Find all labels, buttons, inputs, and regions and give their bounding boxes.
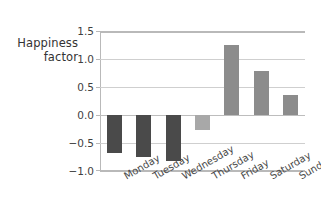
y-axis-tick-label: −0.5 bbox=[66, 138, 94, 149]
y-axis-tick bbox=[96, 115, 100, 116]
x-axis-tick-label-sunday: Sunday bbox=[297, 172, 303, 182]
y-axis-tick bbox=[96, 31, 100, 32]
y-axis-tick-label: 1.5 bbox=[66, 26, 94, 37]
y-axis-tick-labels: 1.51.00.50.0−0.5−1.0 bbox=[62, 31, 94, 171]
y-axis-tick bbox=[96, 87, 100, 88]
x-axis-tick-label-saturday: Saturday bbox=[268, 172, 274, 182]
y-axis-tick bbox=[96, 170, 100, 171]
bar-wednesday[interactable] bbox=[166, 115, 181, 161]
x-axis-tick-label-tuesday: Tuesday bbox=[151, 172, 157, 182]
bar-saturday[interactable] bbox=[254, 71, 269, 115]
y-axis-tick-label: 0.0 bbox=[66, 110, 94, 121]
x-axis-tick-label-friday: Friday bbox=[239, 172, 245, 182]
bar-tuesday[interactable] bbox=[136, 115, 151, 157]
plot-frame-top bbox=[100, 31, 305, 33]
gridline-1 bbox=[100, 59, 305, 60]
y-axis-tick-label: 1.0 bbox=[66, 54, 94, 65]
bar-friday[interactable] bbox=[224, 45, 239, 115]
x-axis-tick-label-thursday: Thursday bbox=[210, 172, 216, 182]
y-axis-tick bbox=[96, 59, 100, 60]
bar-monday[interactable] bbox=[107, 115, 122, 153]
plot-area bbox=[100, 31, 305, 171]
bar-chart: Happiness factor 1.51.00.50.0−0.5−1.0 Mo… bbox=[0, 0, 321, 221]
x-axis-tick-label-wednesday: Wednesday bbox=[180, 172, 186, 182]
y-axis-tick-label: −1.0 bbox=[66, 166, 94, 177]
bar-thursday[interactable] bbox=[195, 115, 210, 130]
gridline-0neg5 bbox=[100, 87, 305, 88]
y-axis-tick bbox=[96, 143, 100, 144]
gridline-neg0-5 bbox=[100, 143, 305, 144]
x-axis-tick-label-monday: Monday bbox=[122, 172, 128, 182]
x-axis-tick-labels: MondayTuesdayWednesdayThursdayFridaySatu… bbox=[100, 172, 305, 221]
y-axis-tick-label: 0.5 bbox=[66, 82, 94, 93]
bar-sunday[interactable] bbox=[283, 95, 298, 115]
plot-frame-left bbox=[100, 31, 101, 171]
